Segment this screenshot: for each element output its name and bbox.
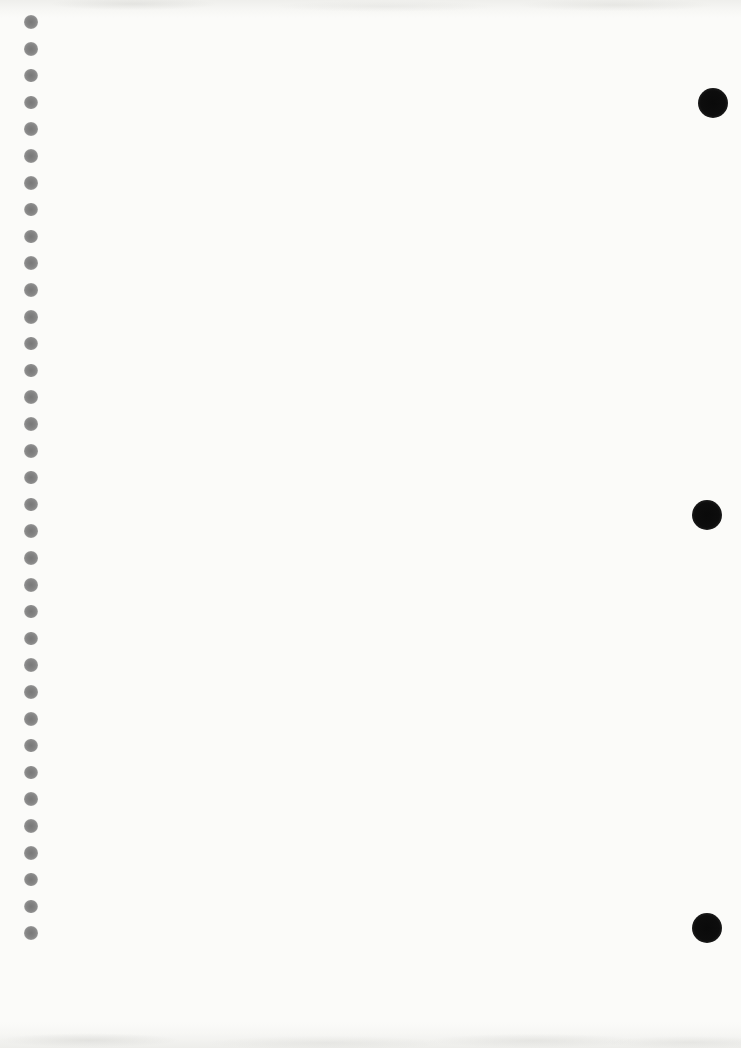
binding-hole-icon (24, 69, 38, 83)
binding-hole-icon (24, 658, 38, 672)
binding-hole-icon (24, 712, 38, 726)
punch-hole-icon (692, 500, 722, 530)
binding-hole-icon (24, 230, 38, 244)
top-scan-noise-band (0, 0, 741, 18)
binding-hole-icon (24, 605, 38, 619)
binding-hole-icon (24, 283, 38, 297)
binding-hole-icon (24, 766, 38, 780)
binding-hole-icon (24, 310, 38, 324)
binding-hole-icon (24, 42, 38, 56)
binding-hole-icon (24, 578, 38, 592)
binding-hole-icon (24, 551, 38, 565)
binding-hole-icon (24, 926, 38, 940)
binding-hole-icon (24, 498, 38, 512)
punch-hole-icon (698, 88, 728, 118)
binding-hole-icon (24, 524, 38, 538)
binding-hole-icon (24, 15, 38, 29)
punch-hole-icon (692, 913, 722, 943)
binding-hole-icon (24, 364, 38, 378)
binding-hole-icon (24, 337, 38, 351)
binding-hole-icon (24, 176, 38, 190)
binding-hole-icon (24, 417, 38, 431)
binding-hole-icon (24, 846, 38, 860)
binding-hole-icon (24, 900, 38, 914)
binding-hole-icon (24, 873, 38, 887)
scanned-blank-page (0, 0, 741, 1048)
binding-hole-icon (24, 390, 38, 404)
bottom-scan-noise-band (0, 1022, 741, 1048)
binding-hole-icon (24, 444, 38, 458)
binding-hole-icon (24, 739, 38, 753)
binding-hole-icon (24, 256, 38, 270)
binding-hole-icon (24, 96, 38, 110)
binding-hole-icon (24, 203, 38, 217)
binding-hole-icon (24, 792, 38, 806)
binding-hole-icon (24, 149, 38, 163)
binding-hole-icon (24, 122, 38, 136)
binding-hole-icon (24, 685, 38, 699)
binding-hole-icon (24, 632, 38, 646)
binding-hole-icon (24, 471, 38, 485)
binding-hole-icon (24, 819, 38, 833)
